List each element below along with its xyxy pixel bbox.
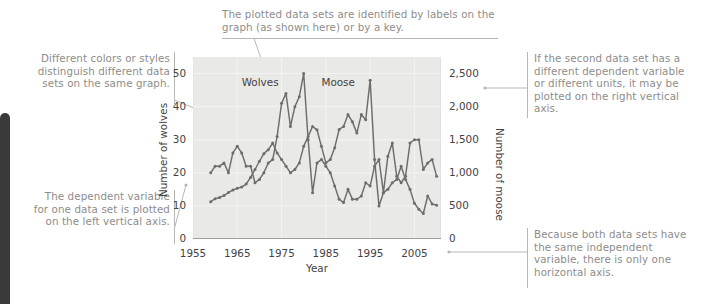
x-tick-1955: 1955 (171, 247, 215, 259)
note-right-lower: Because both data sets have the same ind… (534, 228, 696, 278)
y-left-tick-50: 50 (145, 67, 186, 79)
x-tick-1995: 1995 (348, 247, 392, 259)
figure-root: The plotted data sets are identified by … (0, 0, 704, 304)
x-axis-title: Year (193, 262, 441, 274)
y-right-tick-2000: 2,000 (449, 100, 495, 112)
x-tick-1975: 1975 (260, 247, 304, 259)
y-left-tick-30: 30 (145, 133, 186, 145)
series-label-wolves: Wolves (242, 76, 279, 88)
y-right-tick-0: 0 (449, 232, 495, 244)
y-left-tick-10: 10 (145, 199, 186, 211)
y-left-tick-40: 40 (145, 100, 186, 112)
series-label-moose: Moose (321, 76, 355, 88)
y-right-tick-500: 500 (449, 199, 495, 211)
chart-svg (193, 57, 441, 239)
y-right-tick-2500: 2,500 (449, 67, 495, 79)
note-top: The plotted data sets are identified by … (222, 8, 500, 33)
chart-plot-area (193, 57, 441, 239)
x-tick-2005: 2005 (392, 247, 436, 259)
y-right-tick-1000: 1,000 (449, 166, 495, 178)
page-edge-bar (0, 113, 10, 304)
y-left-tick-20: 20 (145, 166, 186, 178)
x-tick-1985: 1985 (304, 247, 348, 259)
x-tick-1965: 1965 (215, 247, 259, 259)
note-right-upper: If the second data set has a different d… (534, 52, 694, 115)
y-right-tick-1500: 1,500 (449, 133, 495, 145)
y-left-tick-0: 0 (145, 232, 186, 244)
